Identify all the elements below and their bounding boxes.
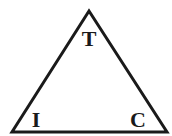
triangle-diagram: T I C: [0, 0, 172, 136]
label-bottom-left: I: [32, 107, 41, 132]
label-top: T: [82, 26, 97, 51]
label-bottom-right: C: [130, 107, 146, 132]
